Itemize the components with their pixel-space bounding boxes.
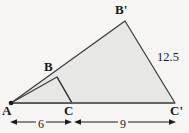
vertex-label-a: A <box>2 104 11 117</box>
vertex-label-b: B <box>44 60 53 73</box>
measurement-label-cc-prime: 9 <box>118 118 128 130</box>
measurement-label-ac: 6 <box>36 118 46 130</box>
geometry-canvas <box>0 0 189 133</box>
geometry-figure: A B B' C C' 6 9 12.5 <box>0 0 189 133</box>
vertex-label-c: C <box>64 104 73 117</box>
vertex-label-b-prime: B' <box>115 3 127 16</box>
measurement-label-b-prime-c-prime: 12.5 <box>155 51 181 64</box>
vertex-label-c-prime: C' <box>170 104 183 117</box>
